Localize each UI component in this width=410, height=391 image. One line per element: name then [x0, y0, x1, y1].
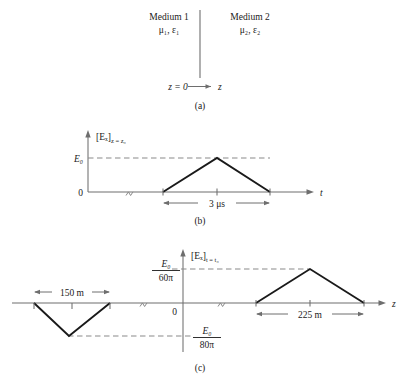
panel-a-origin-label: z = 0 — [167, 82, 188, 92]
medium-2-parameters: μ₂, ε₂ — [240, 25, 260, 35]
panel-c-x-axis-label: z — [391, 299, 396, 309]
panel-c-caption: (c) — [195, 363, 206, 374]
panel-c-x-axis-arrowhead — [379, 300, 387, 305]
medium-1-title: Medium 1 — [149, 12, 189, 22]
panel-c-upper-value-numerator: E₀ — [160, 259, 170, 269]
panel-b-pulse-waveform — [163, 158, 270, 192]
panel-c-y-axis-label-sub: t = t₀ — [206, 256, 219, 263]
panel-c-right-dimension-arrowhead-left — [256, 312, 262, 317]
panel-c-right-dimension-label: 225 m — [298, 310, 323, 320]
panel-c: [Eₓ]t = t₀ E₀ 60π E₀ 80π 0 — [12, 249, 396, 374]
panel-c-y-axis-label: [Eₓ]t = t₀ — [191, 251, 219, 263]
panel-b-y-axis-label-sub: z = z₀ — [111, 137, 126, 144]
svg-text:[Eₓ]z = z₀: [Eₓ]z = z₀ — [96, 132, 126, 144]
panel-c-y-axis-arrowhead — [180, 249, 185, 257]
panel-c-y-axis-label-main: [Eₓ] — [191, 251, 206, 261]
panel-a-z-axis-label: z — [217, 82, 222, 92]
medium-2-title: Medium 2 — [230, 12, 270, 22]
panel-b-x-axis-arrowhead — [307, 189, 315, 194]
panel-b: [Eₓ]z = z₀ E₀ 0 3 μs t (b) — [73, 130, 323, 227]
panel-b-dimension-arrowhead-right — [264, 201, 270, 206]
panel-c-transmitted-pulse-waveform — [256, 269, 364, 303]
panel-c-right-dimension-arrowhead-right — [358, 312, 364, 317]
panel-c-lower-value-fraction: E₀ 80π — [193, 326, 221, 350]
panel-a: Medium 1 μ₁, ε₁ Medium 2 μ₂, ε₂ z = 0 z … — [149, 10, 270, 112]
panel-c-left-dimension-arrowhead-left — [34, 290, 40, 295]
panel-b-y-axis-arrowhead — [85, 130, 90, 138]
panel-c-dimension-150m: 150 m — [34, 286, 110, 298]
panel-c-upper-value-denominator: 60π — [159, 273, 174, 283]
panel-c-left-dimension-arrowhead-right — [104, 290, 110, 295]
medium-1-parameters: μ₁, ε₁ — [159, 25, 179, 35]
panel-b-caption: (b) — [194, 216, 205, 227]
panel-b-y-axis-label-main: [Eₓ] — [96, 132, 111, 142]
panel-b-y-axis-label: [Eₓ]z = z₀ — [96, 132, 126, 144]
panel-b-e0-label: E₀ — [73, 154, 83, 164]
panel-c-left-dimension-label: 150 m — [60, 288, 85, 298]
panel-b-dimension-label: 3 μs — [209, 199, 225, 209]
panel-b-dimension-arrowhead-left — [163, 201, 169, 206]
panel-c-lower-value-numerator: E₀ — [201, 326, 211, 336]
panel-b-x-axis-label: t — [320, 188, 323, 198]
panel-c-dimension-225m: 225 m — [256, 308, 364, 320]
wave-reflection-transmission-figure: Medium 1 μ₁, ε₁ Medium 2 μ₂, ε₂ z = 0 z … — [0, 0, 410, 391]
panel-b-dimension-3us: 3 μs — [163, 197, 270, 209]
panel-c-upper-value-fraction: E₀ 60π — [152, 259, 180, 283]
panel-a-z-axis-arrowhead — [206, 84, 212, 89]
panel-c-origin-label: 0 — [172, 307, 177, 317]
panel-b-origin-label: 0 — [78, 188, 83, 198]
panel-c-lower-value-denominator: 80π — [200, 340, 215, 350]
panel-a-caption: (a) — [195, 101, 206, 112]
